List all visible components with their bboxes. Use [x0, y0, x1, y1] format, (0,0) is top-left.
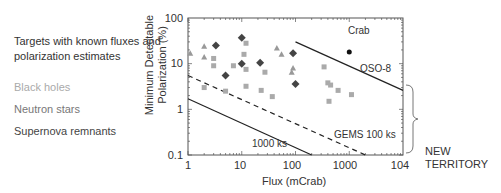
data-point-neutron-stars: [326, 99, 331, 104]
x-tick-1000: 1000: [333, 159, 357, 171]
data-point-neutron-stars: [270, 94, 275, 99]
y-tick-0.1: 0.1: [168, 149, 183, 161]
data-point-supernova-remnants: [238, 60, 246, 68]
line-1000-ks: [188, 99, 312, 155]
x-axis-label: Flux (mCrab): [262, 175, 326, 187]
data-point-supernova-remnants: [222, 72, 230, 80]
data-point-black-holes: [290, 65, 296, 71]
new-territory-brace-icon: [406, 85, 418, 153]
x-tick-10: 10: [234, 159, 246, 171]
data-point-neutron-stars: [322, 64, 327, 69]
data-point-supernova-remnants: [212, 41, 220, 49]
crab-label: Crab: [348, 25, 370, 36]
data-point-crab: [347, 50, 352, 55]
x-tick-1: 1: [185, 159, 191, 171]
data-points: [187, 34, 354, 104]
data-point-neutron-stars: [259, 88, 264, 93]
data-point-neutron-stars: [244, 67, 249, 72]
data-point-supernova-remnants: [238, 34, 246, 42]
1000ks-label: 1000 ks: [252, 138, 287, 149]
data-point-black-holes: [279, 51, 285, 57]
data-point-supernova-remnants: [292, 80, 300, 88]
data-point-neutron-stars: [211, 56, 216, 61]
data-point-neutron-stars: [349, 92, 354, 97]
data-point-neutron-stars: [241, 52, 246, 57]
data-point-supernova-remnants: [256, 59, 264, 67]
y-tick-10: 10: [171, 57, 183, 69]
x-tick-10000: 104: [391, 159, 409, 171]
data-point-black-holes: [201, 43, 207, 49]
data-point-black-holes: [201, 54, 207, 60]
data-point-neutron-stars: [262, 70, 267, 75]
x-tick-100: 100: [283, 159, 301, 171]
new-territory-label: NEW TERRITORY: [425, 145, 485, 171]
data-point-neutron-stars: [328, 83, 333, 88]
oso8-label: OSO-8: [360, 63, 392, 74]
y-tick-1: 1: [177, 103, 183, 115]
data-point-neutron-stars: [244, 84, 249, 89]
data-point-neutron-stars: [223, 89, 228, 94]
data-point-neutron-stars: [244, 41, 249, 46]
data-point-neutron-stars: [231, 63, 236, 68]
data-point-black-holes: [274, 45, 280, 51]
gems-label: GEMS 100 ks: [334, 129, 396, 140]
data-point-neutron-stars: [202, 85, 207, 90]
data-point-supernova-remnants: [289, 49, 297, 57]
y-tick-100: 100: [165, 12, 183, 24]
data-point-neutron-stars: [336, 88, 341, 93]
data-point-neutron-stars: [211, 63, 216, 68]
